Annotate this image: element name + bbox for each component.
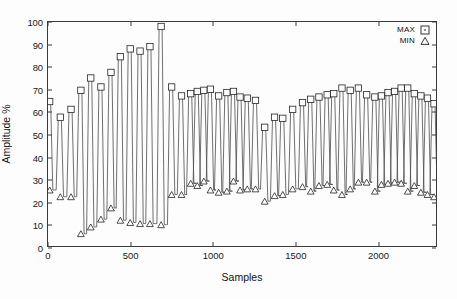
min-marker — [98, 216, 105, 222]
chart-figure: Amplitude % Samples 01020304050607080901… — [0, 0, 457, 299]
max-marker — [224, 89, 230, 95]
y-tick-mark — [432, 44, 436, 45]
legend-item-max: MAX — [372, 24, 430, 35]
min-marker — [347, 186, 354, 192]
y-tick-label: 70 — [33, 84, 43, 95]
max-marker — [385, 89, 391, 95]
y-tick-mark — [48, 225, 52, 226]
max-marker — [347, 87, 353, 93]
y-tick-label: 30 — [33, 175, 43, 186]
y-tick-label: 100 — [27, 17, 43, 28]
x-tick-mark — [48, 242, 49, 246]
max-marker — [108, 69, 114, 75]
min-marker — [237, 187, 244, 193]
min-marker — [363, 179, 370, 185]
y-tick-mark — [48, 67, 52, 68]
chart-legend: MAX MIN — [370, 22, 432, 49]
y-tick-label: 50 — [33, 130, 43, 141]
y-tick-mark — [432, 202, 436, 203]
max-marker — [207, 86, 213, 92]
min-marker — [87, 224, 94, 230]
max-marker — [201, 87, 207, 93]
x-tick-mark — [295, 22, 296, 26]
signal-trace — [48, 26, 436, 233]
plot-area: 01020304050607080901000500100015002000 — [47, 21, 437, 247]
max-marker — [194, 88, 200, 94]
min-marker — [108, 205, 115, 211]
y-tick-mark — [432, 89, 436, 90]
x-tick-mark — [48, 22, 49, 26]
max-marker — [378, 93, 384, 99]
max-marker — [262, 124, 268, 130]
y-tick-mark — [48, 89, 52, 90]
min-marker — [127, 220, 134, 226]
max-marker — [168, 84, 174, 90]
min-marker — [330, 187, 337, 193]
max-marker — [398, 85, 404, 91]
max-marker — [48, 98, 53, 104]
legend-label-min: MIN — [400, 35, 415, 46]
y-tick-mark — [48, 22, 52, 23]
max-marker — [424, 95, 430, 101]
max-marker — [98, 84, 104, 90]
x-tick-label: 1000 — [203, 250, 224, 261]
y-tick-mark — [48, 180, 52, 181]
x-tick-mark — [213, 22, 214, 26]
max-marker — [355, 85, 361, 91]
min-marker — [178, 192, 185, 198]
min-marker — [355, 179, 362, 185]
max-marker — [363, 92, 369, 98]
triangle-marker-icon — [420, 36, 430, 46]
max-marker — [339, 85, 345, 91]
y-axis-label: Amplitude % — [0, 105, 12, 164]
min-marker — [168, 192, 175, 198]
x-tick-label: 2000 — [368, 250, 389, 261]
x-tick-mark — [130, 242, 131, 246]
max-marker — [271, 114, 277, 120]
y-tick-mark — [48, 202, 52, 203]
y-tick-mark — [432, 22, 436, 23]
y-tick-mark — [432, 135, 436, 136]
max-marker — [411, 91, 417, 97]
y-tick-label: 80 — [33, 62, 43, 73]
y-tick-mark — [432, 157, 436, 158]
min-marker — [117, 217, 124, 223]
x-tick-mark — [295, 242, 296, 246]
y-tick-mark — [48, 44, 52, 45]
x-tick-label: 500 — [123, 250, 139, 261]
min-marker — [77, 231, 84, 237]
max-marker — [237, 94, 243, 100]
min-marker — [316, 183, 323, 189]
max-marker — [308, 96, 314, 102]
max-marker — [117, 54, 123, 60]
min-marker — [289, 186, 296, 192]
x-tick-label: 1500 — [285, 250, 306, 261]
y-tick-label: 20 — [33, 197, 43, 208]
max-marker — [188, 91, 194, 97]
max-marker — [280, 115, 286, 121]
max-marker — [431, 101, 436, 107]
min-marker — [307, 188, 314, 194]
max-marker — [391, 88, 397, 94]
min-marker — [215, 189, 222, 195]
y-tick-mark — [48, 135, 52, 136]
max-marker — [244, 95, 250, 101]
max-marker — [418, 93, 424, 99]
min-marker — [261, 198, 268, 204]
max-marker — [78, 87, 84, 93]
y-tick-label: 0 — [38, 243, 43, 254]
y-tick-mark — [48, 157, 52, 158]
min-marker — [339, 192, 346, 198]
min-marker — [57, 194, 64, 200]
min-marker — [48, 187, 53, 193]
max-marker — [88, 75, 94, 81]
max-marker — [215, 93, 221, 99]
min-marker — [68, 194, 75, 200]
max-marker — [230, 88, 236, 94]
series-lines — [48, 22, 436, 246]
legend-label-max: MAX — [397, 24, 415, 35]
max-marker — [324, 92, 330, 98]
y-tick-label: 60 — [33, 107, 43, 118]
max-marker — [137, 48, 143, 54]
max-marker — [158, 23, 164, 29]
